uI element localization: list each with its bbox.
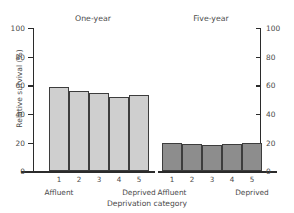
x-cat-label-five-1: 1	[165, 175, 179, 184]
x-cat-label-five-2: 2	[185, 175, 199, 184]
x-end-label-one-affluent: Affluent	[34, 188, 84, 197]
bar-five-year-3	[202, 145, 222, 172]
bar-one-year-4	[109, 97, 129, 172]
x-end-label-five-affluent: Affluent	[147, 188, 197, 197]
x-cat-label-five-5: 5	[245, 175, 259, 184]
x-cat-label-five-4: 4	[225, 175, 239, 184]
bar-five-year-2	[182, 144, 202, 171]
x-cat-label-one-2: 2	[72, 175, 86, 184]
bar-one-year-5	[129, 95, 149, 172]
x-cat-label-one-4: 4	[112, 175, 126, 184]
bar-five-year-4	[222, 144, 242, 171]
x-cat-label-one-1: 1	[52, 175, 66, 184]
bar-five-year-5	[242, 143, 262, 171]
x-cat-label-one-3: 3	[92, 175, 106, 184]
x-axis-title: Deprivation category	[0, 199, 294, 208]
bar-five-year-1	[162, 143, 182, 171]
x-cat-label-five-3: 3	[205, 175, 219, 184]
bar-one-year-2	[69, 91, 89, 171]
chart-figure: 100 80 60 40 20 0 100 80 60 40 20 0 Rela…	[0, 0, 294, 213]
bar-one-year-3	[89, 93, 109, 172]
x-cat-label-one-5: 5	[132, 175, 146, 184]
bar-one-year-1	[49, 87, 69, 172]
x-end-label-five-deprived: Deprived	[227, 188, 277, 197]
